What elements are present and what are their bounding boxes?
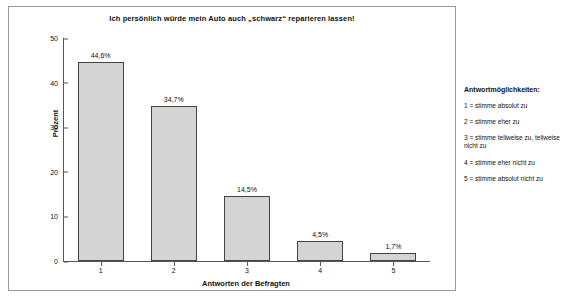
legend-item-2: 2 = stimme eher zu xyxy=(464,118,570,126)
x-tick-1: 1 xyxy=(99,267,103,274)
chart-frame: Ich persönlich würde mein Auto auch „sch… xyxy=(8,6,456,291)
legend: Antwortmöglichkeiten: 1 = stimme absolut… xyxy=(464,86,570,191)
bar-value-5: 1,7% xyxy=(385,243,401,250)
legend-item-4: 4 = stimme eher nicht zu xyxy=(464,159,570,167)
bar-3[interactable] xyxy=(224,196,270,261)
x-axis-label: Antworten der Befragten xyxy=(63,279,429,288)
bar-series: 44,6% 1 34,7% 2 14,5% 3 4,5% 4 xyxy=(64,38,430,261)
bar-value-1: 44,6% xyxy=(91,52,111,59)
bar-4[interactable] xyxy=(297,241,343,261)
x-tick-5: 5 xyxy=(391,267,395,274)
bar-slot-2: 34,7% 2 xyxy=(137,38,210,261)
y-tick-40: 40 xyxy=(50,79,64,86)
figure-container: Ich persönlich würde mein Auto auch „sch… xyxy=(0,0,575,302)
y-tick-20: 20 xyxy=(50,168,64,175)
bar-slot-3: 14,5% 3 xyxy=(210,38,283,261)
plot-area: 0 10 20 30 40 50 44,6% 1 34,7% 2 xyxy=(63,38,430,262)
legend-title: Antwortmöglichkeiten: xyxy=(464,86,570,93)
chart-title: Ich persönlich würde mein Auto auch „sch… xyxy=(9,14,455,23)
legend-item-5: 5 = stimme absolut nicht zu xyxy=(464,175,570,183)
y-tick-50: 50 xyxy=(50,35,64,42)
bar-value-2: 34,7% xyxy=(164,96,184,103)
x-tick-2: 2 xyxy=(172,267,176,274)
x-tick-3: 3 xyxy=(245,267,249,274)
bar-slot-4: 4,5% 4 xyxy=(284,38,357,261)
bar-slot-5: 1,7% 5 xyxy=(357,38,430,261)
bar-5[interactable] xyxy=(370,253,416,261)
legend-item-1: 1 = stimme absolut zu xyxy=(464,102,570,110)
bar-value-3: 14,5% xyxy=(237,186,257,193)
bar-1[interactable] xyxy=(78,62,124,261)
y-tick-0: 0 xyxy=(54,258,64,265)
y-tick-10: 10 xyxy=(50,213,64,220)
bar-value-4: 4,5% xyxy=(312,231,328,238)
y-tick-30: 30 xyxy=(50,124,64,131)
bar-2[interactable] xyxy=(151,106,197,261)
legend-item-3: 3 = stimme teilweise zu, teilweise nicht… xyxy=(464,134,570,150)
x-tick-4: 4 xyxy=(318,267,322,274)
bar-slot-1: 44,6% 1 xyxy=(64,38,137,261)
